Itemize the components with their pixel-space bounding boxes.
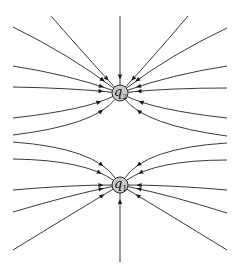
- q2-field-line: [13, 96, 113, 118]
- arrowhead-icon: [134, 192, 141, 198]
- arrowhead-icon: [138, 99, 144, 105]
- charge-q2-symbol: q: [114, 84, 122, 99]
- arrowhead-icon: [99, 192, 106, 198]
- q2-field-line: [51, 16, 115, 87]
- arrowhead-icon: [137, 183, 142, 187]
- q2-field-line: [13, 66, 112, 90]
- field-line-diagram: q2 q1: [0, 0, 239, 273]
- arrowhead-icon: [137, 170, 143, 176]
- arrowhead-icon: [96, 99, 102, 105]
- q2-field-line: [128, 66, 227, 90]
- q2-field-line: [126, 28, 227, 88]
- q1-field-line: [13, 187, 112, 212]
- arrowhead-icon: [118, 74, 122, 79]
- charge-q1-subscript: 1: [122, 184, 127, 193]
- field-lines: [13, 16, 227, 262]
- arrowhead-icon: [96, 170, 102, 176]
- arrowhead-icon: [98, 108, 105, 114]
- arrowhead-icon: [135, 84, 141, 90]
- arrowhead-icon: [98, 183, 103, 187]
- arrowhead-icon: [136, 89, 141, 94]
- q2-field-line: [128, 88, 227, 92]
- q2-field-line: [13, 27, 114, 88]
- charge-q1: q1: [112, 176, 128, 193]
- arrowhead-icon: [136, 108, 143, 114]
- arrowhead-icon: [98, 89, 103, 94]
- q2-field-line: [125, 99, 227, 136]
- q2-field-line: [13, 87, 112, 92]
- q2-field-line: [127, 96, 227, 118]
- q1-field-line: [128, 187, 227, 213]
- q2-field-line: [125, 16, 188, 87]
- q1-field-line: [128, 185, 227, 190]
- charge-q1-symbol: q: [114, 176, 122, 191]
- arrowhead-icon: [98, 84, 104, 90]
- charge-q2-subscript: 2: [122, 92, 127, 101]
- q1-field-line: [13, 159, 113, 180]
- q2-field-line: [13, 99, 115, 135]
- arrowhead-icon: [118, 199, 122, 204]
